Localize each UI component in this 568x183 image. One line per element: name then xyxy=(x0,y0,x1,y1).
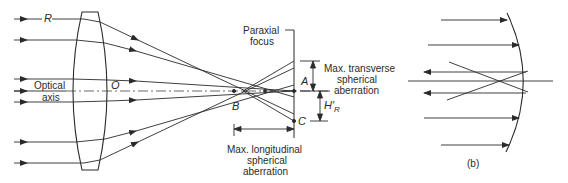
point-c-label: C xyxy=(298,116,306,127)
optical-axis-label-2: axis xyxy=(42,92,60,103)
paraxial-focus-label-2: focus xyxy=(250,36,274,47)
transverse-label-2: spherical xyxy=(337,74,377,85)
height-h-text: H′ xyxy=(324,99,334,111)
paraxial-focus-label-1: Paraxial xyxy=(243,25,279,36)
longitudinal-label-1: Max. longitudinal xyxy=(227,144,302,155)
point-b-label: B xyxy=(232,101,239,112)
height-hr-label: H′R xyxy=(324,100,340,115)
center-o-label: O xyxy=(111,80,120,91)
concave-mirror xyxy=(506,13,523,152)
height-sub-text: R xyxy=(334,105,340,114)
transverse-label-1: Max. transverse xyxy=(324,63,395,74)
transverse-label-3: aberration xyxy=(334,85,379,96)
longitudinal-label-3: aberration xyxy=(243,166,288,177)
longitudinal-label-2: spherical xyxy=(247,155,287,166)
spherical-aberration-figure: R Optical axis O Paraxial focus A B C H′… xyxy=(0,0,568,183)
figure-b-caption: (b) xyxy=(467,158,479,169)
ray-r-label: R xyxy=(44,13,52,24)
optical-axis-label-1: Optical xyxy=(34,80,65,91)
point-a-label: A xyxy=(301,76,308,87)
